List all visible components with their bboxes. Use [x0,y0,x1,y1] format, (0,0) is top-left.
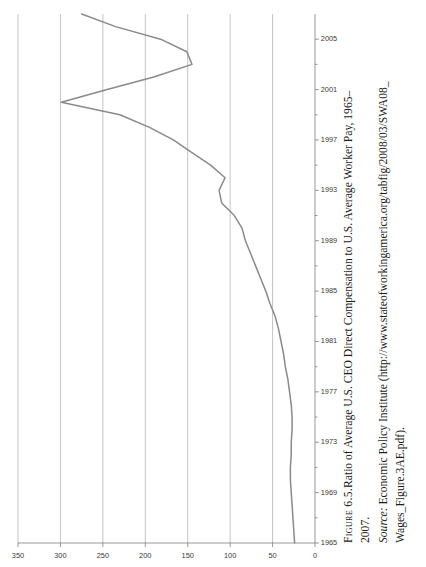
x-tick-label-1993: 1993 [321,185,337,194]
figure-number-label: Figure 6.5. [342,488,355,543]
x-tick-label-1969: 1969 [321,488,337,497]
gridlines-group [18,14,315,543]
x-tick-label-1997: 1997 [321,135,337,144]
caption-text-line1: Ratio of Average U.S. CEO Direct Compens… [342,91,355,488]
y-tick-label-350: 350 [12,551,24,560]
source-paragraph-1: Source: Economic Policy Institute (http:… [376,21,392,543]
x-tick-label-2001: 2001 [321,85,337,94]
x-tick-label-1985: 1985 [321,286,337,295]
x-tick-label-1977: 1977 [321,387,337,396]
series-group [61,14,294,543]
y-tick-label-50: 50 [268,551,276,560]
x-tick-label-1973: 1973 [321,437,337,446]
ticks-group [18,39,319,547]
y-tick-label-100: 100 [224,551,236,560]
x-axis-tick-labels: 1965196919731977198119851989199319972001… [321,34,337,547]
y-tick-label-300: 300 [54,551,66,560]
source-text-line1: Economic Policy Institute (http://www.st… [377,81,390,507]
x-tick-label-1965: 1965 [321,538,337,547]
y-tick-label-150: 150 [182,551,194,560]
caption-paragraph-1: Figure 6.5.Ratio of Average U.S. CEO Dir… [341,21,357,543]
figure-caption: Figure 6.5.Ratio of Average U.S. CEO Dir… [341,21,411,543]
y-axis-tick-labels: 050100150200250300350 [12,551,317,560]
y-tick-label-200: 200 [139,551,151,560]
figure-root: 1965196919731977198119851989199319972001… [0,0,426,567]
data-series-line [61,14,294,543]
y-tick-label-250: 250 [97,551,109,560]
x-tick-label-1989: 1989 [321,236,337,245]
source-label: Source: [377,507,390,543]
x-tick-label-1981: 1981 [321,336,337,345]
x-tick-label-2005: 2005 [321,34,337,43]
y-tick-label-0: 0 [313,551,317,560]
caption-paragraph-2: 2007. [358,21,374,543]
source-paragraph-2: Wages_Figure.3AE.pdf). [393,21,409,543]
